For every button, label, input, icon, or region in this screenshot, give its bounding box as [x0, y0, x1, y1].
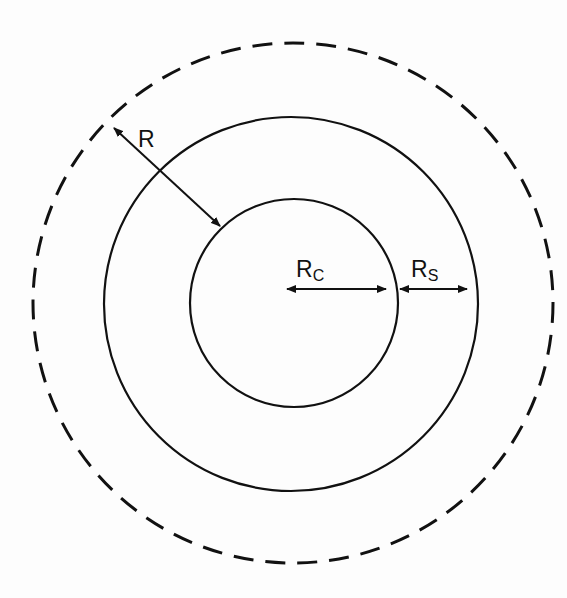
rc-label: RC — [296, 256, 324, 284]
shell-circle — [104, 117, 478, 491]
diagram-canvas: R RC RS — [0, 0, 567, 598]
core-circle — [190, 199, 398, 407]
outer-dashed-circle — [33, 43, 553, 563]
r-label: R — [138, 126, 155, 152]
rs-label: RS — [411, 256, 438, 284]
r-arrow — [114, 128, 220, 226]
concentric-circles-diagram: R RC RS — [0, 0, 567, 598]
